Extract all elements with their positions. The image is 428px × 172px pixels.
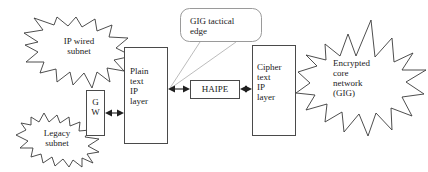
box-plain-text-ip-layer-shape: [125, 48, 168, 144]
box-cipher-text-ip-layer-shape: [253, 46, 296, 136]
callout-gig-tactical-edge-shape: [181, 9, 262, 42]
diagram-vector-layer: [0, 0, 428, 172]
diagram-canvas: IP wired subnet Legacy subnet Encrypted …: [0, 0, 428, 172]
cloud-encrypted-core-network-shape: [296, 20, 426, 136]
connector-haipe-to-cipher-text: [240, 86, 252, 93]
box-gw-shape: [87, 91, 105, 136]
box-haipe-shape: [191, 81, 240, 99]
cloud-ip-wired-subnet-shape: [24, 17, 132, 88]
connector-gw-to-plain-text: [105, 110, 124, 117]
